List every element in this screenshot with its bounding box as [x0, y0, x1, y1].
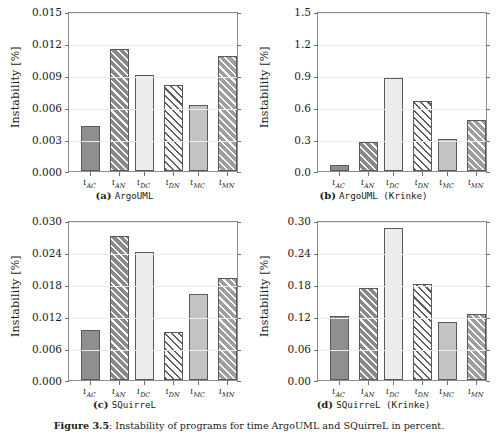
y-tick-label: 1.2: [294, 38, 311, 50]
gridline: [69, 318, 237, 319]
y-tick-mark: [65, 286, 69, 287]
x-tick-mark: [368, 172, 369, 176]
subplot-caption-name-c: SQuirreL: [112, 399, 156, 410]
y-tick-mark: [314, 350, 318, 351]
y-tick-labels-d: 0.000.060.120.180.240.30: [271, 219, 315, 384]
gridline: [69, 286, 237, 287]
figure-container: Instability [%] 0.0000.0030.0060.0090.01…: [0, 0, 498, 440]
y-tick-mark: [65, 141, 69, 142]
x-tick-mark: [198, 381, 199, 385]
figure-caption-text: : Instability of programs for time ArgoU…: [109, 420, 444, 431]
y-tick-mark: [65, 13, 69, 14]
x-tick-label: ιDC: [386, 177, 399, 190]
x-tick-subscript: AN: [115, 182, 125, 190]
bar-an: [110, 236, 129, 380]
x-tick-label: ιMC: [439, 386, 454, 399]
y-tick-label: 0.6: [294, 102, 311, 114]
axes-frame-b: [317, 12, 487, 172]
bar-an: [359, 142, 378, 171]
x-tick-label: ιMN: [468, 386, 484, 399]
y-tick-mark-right: [237, 318, 241, 319]
x-tick-subscript: MN: [471, 391, 483, 399]
bar-dc: [135, 252, 154, 380]
x-tick-mark: [119, 172, 120, 176]
bars-group-a: [69, 13, 237, 171]
y-tick-label: 0.000: [32, 375, 62, 387]
bar-mc: [438, 139, 457, 171]
x-tick-label: ιMC: [190, 177, 205, 190]
gridline: [69, 13, 237, 14]
y-tick-label: 0.24: [288, 247, 311, 259]
bar-mn: [218, 56, 237, 171]
x-tick-mark: [227, 172, 228, 176]
x-tick-label: ιDC: [137, 177, 150, 190]
x-tick-label: ιAC: [332, 386, 345, 399]
bars-group-b: [318, 13, 486, 171]
y-tick-mark: [314, 286, 318, 287]
gridline: [69, 141, 237, 142]
y-tick-label: 0.018: [32, 279, 62, 291]
bar-dc: [135, 75, 154, 171]
y-tick-mark-right: [237, 109, 241, 110]
x-tick-label: ιDN: [165, 177, 179, 190]
y-tick-label: 0.009: [32, 70, 62, 82]
x-tick-label: ιMC: [439, 177, 454, 190]
x-tick-label: ιDC: [386, 386, 399, 399]
gridline: [318, 222, 486, 223]
x-tick-subscript: DN: [418, 391, 429, 399]
plot-area-a: Instability [%] 0.0000.0030.0060.0090.01…: [0, 0, 249, 209]
x-tick-subscript: AN: [364, 391, 374, 399]
axes-frame-d: [317, 221, 487, 381]
y-tick-mark-right: [486, 254, 490, 255]
y-tick-label: 0.006: [32, 343, 62, 355]
gridline: [318, 318, 486, 319]
x-tick-mark: [119, 381, 120, 385]
bar-an: [110, 49, 129, 171]
x-tick-subscript: MC: [193, 391, 204, 399]
bar-dn: [413, 101, 432, 171]
x-tick-label: ιMC: [190, 386, 205, 399]
y-tick-mark: [65, 350, 69, 351]
gridline: [69, 45, 237, 46]
x-tick-labels-a: ιACιANιDCιDNιMCιMN: [68, 173, 238, 189]
subplot-b: Instability [%] 0.00.30.60.91.21.5 ιACιA…: [249, 0, 498, 209]
subplot-caption-label-d: (d): [317, 399, 333, 410]
y-tick-mark-right: [237, 350, 241, 351]
bar-dn: [164, 332, 183, 380]
y-tick-mark-right: [486, 45, 490, 46]
y-tick-mark: [65, 45, 69, 46]
y-tick-mark: [314, 222, 318, 223]
bars-group-c: [69, 222, 237, 380]
y-tick-label: 0.015: [32, 6, 62, 18]
x-tick-mark: [476, 381, 477, 385]
gridline: [69, 350, 237, 351]
y-tick-mark-right: [486, 318, 490, 319]
bar-dn: [164, 85, 183, 171]
y-tick-mark: [314, 318, 318, 319]
x-tick-label: ιAN: [112, 177, 126, 190]
x-tick-mark: [227, 381, 228, 385]
x-tick-subscript: AC: [335, 391, 345, 399]
axes-frame-c: [68, 221, 238, 381]
gridline: [69, 77, 237, 78]
y-tick-mark-right: [237, 222, 241, 223]
x-tick-subscript: DN: [169, 182, 180, 190]
x-tick-mark: [393, 381, 394, 385]
x-tick-mark: [173, 172, 174, 176]
y-tick-mark-right: [486, 286, 490, 287]
x-tick-subscript: DC: [140, 391, 150, 399]
y-tick-mark: [65, 222, 69, 223]
subplot-caption-b: (b) ArgoUML (Krinke): [249, 190, 498, 201]
x-tick-label: ιDN: [414, 386, 428, 399]
subplot-caption-name-a: ArgoUML: [115, 190, 154, 201]
y-tick-mark-right: [237, 45, 241, 46]
y-tick-mark: [314, 254, 318, 255]
bars-group-d: [318, 222, 486, 380]
x-tick-label: ιAN: [112, 386, 126, 399]
subplot-c: Instability [%] 0.0000.0060.0120.0180.02…: [0, 209, 249, 418]
subplot-caption-c: (c) SQuirreL: [0, 399, 249, 410]
y-tick-mark-right: [486, 222, 490, 223]
subplot-caption-name-b: ArgoUML (Krinke): [339, 190, 428, 201]
x-tick-mark: [422, 381, 423, 385]
subplot-a: Instability [%] 0.0000.0030.0060.0090.01…: [0, 0, 249, 209]
